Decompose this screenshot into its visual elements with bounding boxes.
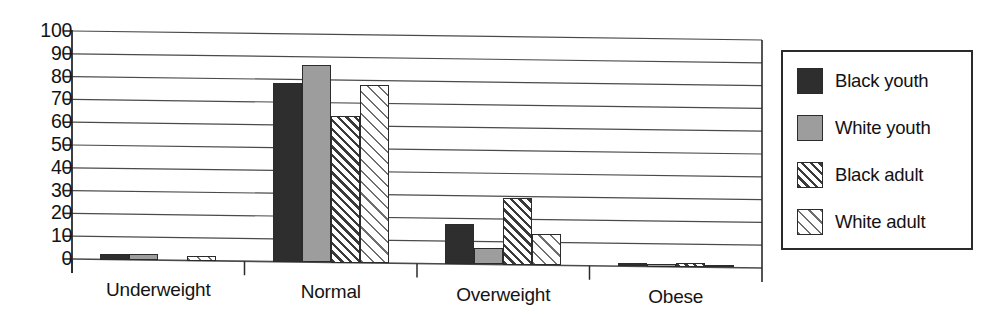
bar-chart-figure: 0102030405060708090100 UnderweightNormal…: [0, 0, 995, 314]
legend-label-black-adult: Black adult: [835, 165, 923, 185]
legend-label-black-youth: Black youth: [835, 71, 928, 91]
legend-swatch-black-adult: [797, 162, 823, 188]
legend: Black youth White youth Black adult Whit…: [781, 50, 973, 250]
legend-item-black-adult: Black adult: [797, 160, 923, 190]
x-axis-label-underweight: Underweight: [72, 279, 245, 301]
x-axis-category-labels: UnderweightNormalOverweightObese: [0, 0, 770, 314]
plot-area: 0102030405060708090100 UnderweightNormal…: [0, 0, 770, 314]
x-axis-label-obese: Obese: [590, 286, 763, 308]
legend-swatch-black-youth: [797, 68, 823, 94]
legend-item-white-youth: White youth: [797, 113, 931, 143]
legend-item-white-adult: White adult: [797, 207, 925, 237]
x-axis-label-normal: Normal: [245, 281, 418, 303]
x-axis-label-overweight: Overweight: [417, 284, 590, 306]
legend-swatch-white-youth: [797, 115, 823, 141]
legend-swatch-white-adult: [797, 209, 823, 235]
legend-label-white-youth: White youth: [835, 118, 931, 138]
legend-item-black-youth: Black youth: [797, 66, 928, 96]
legend-label-white-adult: White adult: [835, 212, 925, 232]
